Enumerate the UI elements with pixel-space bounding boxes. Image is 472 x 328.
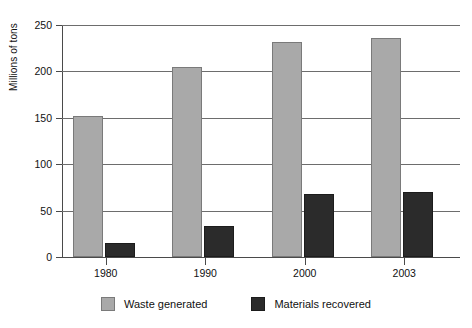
x-axis-tick-label-2000: 2000 <box>275 267 335 279</box>
chart-legend: Waste generatedMaterials recovered <box>0 297 472 311</box>
y-axis-tick-label: 100 <box>18 159 52 169</box>
x-axis-tick-label-1990: 1990 <box>175 267 235 279</box>
bar-2003-materials-recovered <box>403 192 433 257</box>
y-axis-tick-label-wrap: 100 <box>14 159 52 169</box>
y-axis-tick-label-wrap: 250 <box>14 20 52 30</box>
y-axis-tick-label-wrap: 150 <box>14 113 52 123</box>
bar-2000-waste-generated <box>272 42 302 257</box>
x-axis-tick-mark <box>106 258 107 265</box>
y-axis-tick-label-wrap: 50 <box>14 206 52 216</box>
y-axis-tick-label: 250 <box>18 20 52 30</box>
x-axis-tick-mark <box>205 258 206 265</box>
bar-2003-waste-generated <box>371 38 401 257</box>
y-axis-title: Millions of tons <box>8 2 26 112</box>
legend-label: Waste generated <box>124 298 207 310</box>
bar-1990-materials-recovered <box>204 226 234 257</box>
plot-area <box>62 25 460 257</box>
x-axis-tick-label-2003: 2003 <box>374 267 434 279</box>
y-axis-tick-label-wrap: 0 <box>14 252 52 262</box>
bar-1990-waste-generated <box>172 67 202 257</box>
legend-entry-materials-recovered: Materials recovered <box>251 297 371 311</box>
y-axis-tick-label-wrap: 200 <box>14 66 52 76</box>
y-axis-tick-label: 200 <box>18 66 52 76</box>
gray-swatch-icon <box>101 297 115 311</box>
bar-1980-waste-generated <box>73 116 103 257</box>
y-axis-tick-label: 0 <box>18 252 52 262</box>
dark-swatch-icon <box>251 297 265 311</box>
x-axis-tick-mark <box>404 258 405 265</box>
y-axis-tick-label: 150 <box>18 113 52 123</box>
gridline <box>62 257 460 258</box>
x-axis-tick-mark <box>305 258 306 265</box>
legend-entry-waste-generated: Waste generated <box>101 297 207 311</box>
bar-1980-materials-recovered <box>105 243 135 257</box>
legend-label: Materials recovered <box>274 298 371 310</box>
bar-chart: Millions of tons 050100150200250 1980199… <box>0 0 472 328</box>
x-axis-tick-label-1980: 1980 <box>76 267 136 279</box>
bar-2000-materials-recovered <box>304 194 334 257</box>
y-axis-tick-label: 50 <box>18 206 52 216</box>
gridline <box>62 25 460 26</box>
